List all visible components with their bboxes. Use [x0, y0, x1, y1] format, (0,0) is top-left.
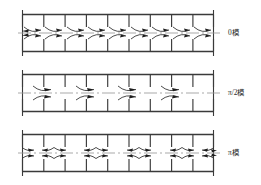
panel-0-drawing [0, 0, 261, 62]
panel-pi-2-drawing [0, 60, 261, 122]
panel-mode-0: 0模 [0, 0, 261, 62]
panel-pi-drawing [0, 120, 261, 185]
panel-mode-pi: π模 [0, 120, 261, 182]
panel-pi-label: π模 [228, 148, 239, 157]
panel-pi-2-label: π/2模 [228, 88, 244, 97]
mode-shape-figure: 0模 [0, 0, 261, 185]
panel-0-label: 0模 [228, 28, 239, 37]
panel-mode-pi-2: π/2模 [0, 60, 261, 122]
